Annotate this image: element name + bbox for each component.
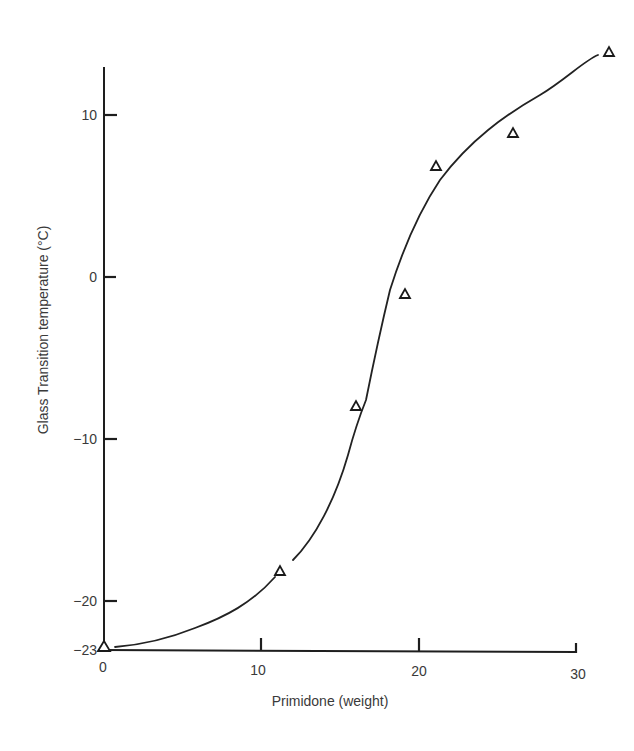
x-tick-30: 30 [570, 666, 586, 682]
data-point-triangle-icon [508, 128, 518, 137]
data-point-triangle-icon [98, 641, 110, 651]
x-axis-title: Primidone (weight) [272, 693, 389, 709]
fit-curve-lower [115, 577, 275, 647]
x-tick-20: 20 [411, 663, 427, 679]
data-point-triangle-icon [275, 566, 285, 575]
x-tick-0: 0 [99, 659, 107, 675]
y-tick-neg20: −20 [73, 593, 97, 609]
y-tick-labels: 10 0 −10 −20 −23 [73, 107, 97, 658]
data-point-triangle-icon [431, 161, 441, 170]
y-ticks [104, 115, 117, 601]
x-axis [103, 650, 577, 652]
data-point-triangle-icon [400, 289, 410, 298]
y-tick-neg23: −23 [73, 642, 97, 658]
data-point-triangle-icon [604, 47, 614, 56]
data-point-triangle-icon [351, 401, 361, 410]
y-axis-title: Glass Transition temperature (°C) [35, 226, 51, 435]
x-tick-10: 10 [250, 662, 266, 678]
y-tick-10: 10 [81, 107, 97, 123]
y-tick-0: 0 [89, 269, 97, 285]
chart: 10 0 −10 −20 −23 0 10 20 30 Primidone (w… [0, 0, 634, 751]
y-tick-neg10: −10 [73, 431, 97, 447]
data-points [98, 47, 614, 651]
x-tick-labels: 0 10 20 30 [99, 659, 586, 682]
fit-curve-upper [293, 55, 598, 560]
